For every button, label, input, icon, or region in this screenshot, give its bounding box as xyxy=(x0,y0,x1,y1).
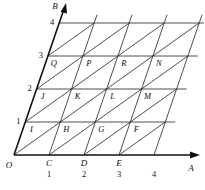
slanted-grid-line xyxy=(119,15,167,155)
x-tick-number: 3 xyxy=(117,169,121,179)
y-tick-number: 2 xyxy=(27,83,31,93)
cell-label-K: K xyxy=(74,91,82,101)
diagonal-line xyxy=(72,56,118,89)
oblique-grid-diagram: OABC1D2E341234IHGFJKLMQPRN xyxy=(0,0,205,190)
diagonal-line xyxy=(37,56,83,89)
grid-lines xyxy=(14,15,204,155)
y-axis-label: B xyxy=(52,1,58,11)
diagonal-line xyxy=(118,23,164,56)
slanted-grid-line xyxy=(84,15,132,155)
diagonal-line xyxy=(95,89,141,122)
y-tick-number: 3 xyxy=(39,50,43,60)
x-tick-letter: C xyxy=(46,158,53,168)
diagonal-line xyxy=(107,56,153,89)
y-tick-number: 1 xyxy=(16,116,20,126)
slanted-grid-line xyxy=(154,15,202,155)
x-tick-number: 2 xyxy=(82,169,86,179)
cell-label-H: H xyxy=(62,124,70,134)
cell-label-L: L xyxy=(109,91,115,101)
cell-label-Q: Q xyxy=(51,58,57,68)
cell-label-G: G xyxy=(98,124,104,134)
diagonal-line xyxy=(84,122,130,155)
cell-label-N: N xyxy=(155,58,163,68)
x-axis-label: A xyxy=(187,163,194,173)
cell-label-J: J xyxy=(41,91,46,101)
y-axis-arrow-icon xyxy=(61,3,68,14)
diagonal-line xyxy=(25,89,71,122)
y-tick-number: 4 xyxy=(50,17,55,27)
cell-label-I: I xyxy=(29,124,34,134)
x-tick-letter: D xyxy=(80,158,88,168)
cell-label-M: M xyxy=(143,91,152,101)
cell-label-P: P xyxy=(85,58,91,68)
diagonal-line xyxy=(119,122,165,155)
diagonal-line xyxy=(48,23,94,56)
origin-label: O xyxy=(6,160,13,170)
cell-label-R: R xyxy=(120,58,127,68)
diagonal-line xyxy=(14,122,60,155)
x-tick-number: 1 xyxy=(47,169,51,179)
x-axis-arrow-icon xyxy=(190,152,200,159)
labels: OABC1D2E341234IHGFJKLMQPRN xyxy=(6,1,195,179)
diagonal-line xyxy=(83,23,129,56)
cell-label-F: F xyxy=(133,124,140,134)
x-tick-letter: E xyxy=(115,158,122,168)
diagonal-line xyxy=(49,122,95,155)
diagonal-line xyxy=(153,23,199,56)
x-tick-number: 4 xyxy=(152,169,157,179)
diagonal-line xyxy=(130,89,176,122)
diagonal-line xyxy=(60,89,106,122)
diagonal-line xyxy=(142,56,188,89)
slanted-grid-line xyxy=(49,15,97,155)
